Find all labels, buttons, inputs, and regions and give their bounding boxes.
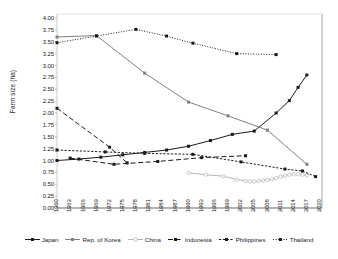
data-point: [305, 163, 308, 166]
data-point: [283, 168, 286, 171]
y-tick-label: 1.00: [30, 158, 54, 164]
legend-label: Philippines: [236, 236, 266, 243]
data-point: [56, 41, 59, 44]
data-point: [248, 180, 251, 183]
data-point: [244, 179, 247, 182]
y-tick-label: 2.25: [30, 98, 54, 104]
data-point: [134, 28, 137, 31]
legend-swatch-japan-icon: [25, 236, 40, 243]
data-point: [288, 173, 291, 176]
legend-label: Thailand: [290, 236, 314, 243]
legend-item-china[interactable]: China: [128, 236, 161, 243]
data-point: [240, 160, 243, 163]
chart-legend: JapanRep. of KoreaChinaIndonesiaPhilippi…: [0, 236, 338, 243]
y-tick-label: 2.00: [30, 110, 54, 116]
data-point: [297, 86, 300, 89]
data-point: [56, 159, 59, 162]
y-tick-label: 2.50: [30, 86, 54, 92]
y-tick-label: 0.75: [30, 169, 54, 175]
data-point: [156, 160, 159, 163]
legend-label: Japan: [42, 236, 59, 243]
y-tick-label: 3.25: [30, 51, 54, 57]
series-japan: [56, 74, 309, 163]
legend-item-philippines[interactable]: Philippines: [219, 236, 266, 243]
data-point: [296, 173, 299, 176]
series-rep-of-korea: [56, 34, 309, 166]
legend-swatch-rep-of-korea-icon: [65, 236, 80, 243]
data-point: [266, 178, 269, 181]
data-point: [191, 42, 194, 45]
data-point: [292, 173, 295, 176]
data-point: [69, 157, 72, 160]
y-tick-label: 3.50: [30, 39, 54, 45]
series-indonesia: [69, 154, 247, 166]
data-point: [209, 139, 212, 142]
data-point: [56, 107, 59, 110]
y-tick-label: 1.25: [30, 146, 54, 152]
series-thailand: [56, 28, 278, 56]
legend-swatch-indonesia-icon: [168, 236, 183, 243]
data-point: [305, 74, 308, 77]
data-point: [56, 149, 59, 152]
data-point: [235, 178, 238, 181]
series-line: [57, 29, 276, 54]
data-point: [283, 174, 286, 177]
data-point: [253, 130, 256, 133]
series-line: [57, 75, 307, 161]
y-tick-label: 0.25: [30, 193, 54, 199]
data-point: [99, 156, 102, 159]
y-tick-label: 3.00: [30, 63, 54, 69]
legend-swatch-philippines-icon: [219, 236, 234, 243]
data-point: [270, 177, 273, 180]
data-point: [266, 129, 269, 132]
data-point: [301, 173, 304, 176]
y-tick-label: 1.50: [30, 134, 54, 140]
data-point: [257, 179, 260, 182]
legend-item-rep-of-korea[interactable]: Rep. of Korea: [65, 236, 120, 243]
series-philippines: [56, 149, 318, 179]
data-point: [222, 174, 225, 177]
y-tick-label: 0.50: [30, 181, 54, 187]
legend-item-japan[interactable]: Japan: [25, 236, 59, 243]
data-point: [305, 174, 308, 177]
data-point: [226, 114, 229, 117]
legend-label: China: [145, 236, 161, 243]
data-point: [274, 176, 277, 179]
y-tick-label: 2.75: [30, 74, 54, 80]
data-point: [143, 72, 146, 75]
data-point: [187, 145, 190, 148]
legend-swatch-thailand-icon: [273, 236, 288, 243]
data-point: [108, 146, 111, 149]
data-point: [143, 152, 146, 155]
series-china: [187, 171, 309, 183]
data-point: [165, 149, 168, 152]
y-axis-tick-labels: 4.003.753.503.253.002.752.502.252.001.75…: [24, 0, 54, 259]
legend-label: Indonesia: [185, 236, 212, 243]
legend-item-indonesia[interactable]: Indonesia: [168, 236, 212, 243]
data-point: [126, 161, 129, 164]
data-point: [204, 173, 207, 176]
data-point: [301, 169, 304, 172]
data-point: [288, 99, 291, 102]
data-point: [231, 133, 234, 136]
data-point: [235, 52, 238, 55]
data-point: [191, 153, 194, 156]
data-point: [261, 179, 264, 182]
series-line: [57, 108, 127, 163]
data-point: [187, 101, 190, 104]
data-point: [121, 153, 124, 156]
data-point: [56, 36, 59, 39]
data-point: [279, 175, 282, 178]
data-point: [275, 53, 278, 56]
data-point: [200, 156, 203, 159]
legend-label: Rep. of Korea: [82, 236, 120, 243]
data-point: [275, 112, 278, 115]
y-tick-label: 4.00: [30, 15, 54, 21]
data-point: [112, 163, 115, 166]
data-point: [165, 35, 168, 38]
legend-item-thailand[interactable]: Thailand: [273, 236, 314, 243]
data-point: [244, 154, 247, 157]
y-tick-label: 1.75: [30, 122, 54, 128]
y-axis-title: Farm size (ha): [9, 52, 16, 132]
y-tick-label: 3.75: [30, 27, 54, 33]
